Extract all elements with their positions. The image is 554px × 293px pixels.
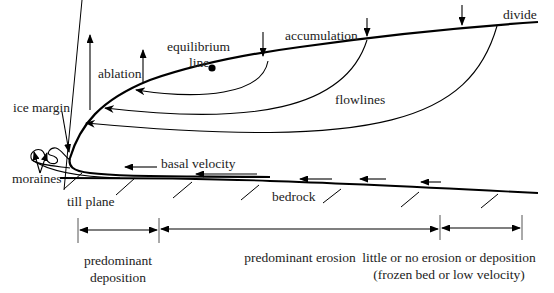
label-line: line (189, 55, 209, 70)
zone-label-frozen-1: little or no erosion or deposition (362, 250, 536, 265)
zone-label-deposition-1: predominant (84, 253, 152, 268)
label-basal-velocity: basal velocity (161, 156, 236, 171)
glacier-diagram: divide accumulation equilibrium line abl… (0, 0, 554, 293)
label-ablation: ablation (98, 66, 142, 81)
label-moraines: moraines (12, 171, 62, 186)
ice-margin-pointer (62, 112, 69, 152)
label-accumulation: accumulation (285, 28, 358, 43)
flowline-2 (105, 40, 367, 114)
label-flowlines: flowlines (335, 92, 385, 107)
label-ice-margin: ice margin (13, 100, 70, 115)
zone-label-frozen-2: (frozen bed or low velocity) (373, 267, 524, 282)
equilibrium-point (208, 64, 215, 71)
zone-label-deposition-2: deposition (90, 270, 146, 285)
zone-dimensions (78, 215, 522, 243)
label-bedrock: bedrock (272, 189, 316, 204)
label-till-plane: till plane (67, 194, 115, 209)
label-equilibrium: equilibrium (167, 39, 230, 54)
ice-surface (70, 22, 538, 177)
zone-label-erosion: predominant erosion (244, 250, 356, 265)
label-divide: divide (503, 7, 537, 22)
